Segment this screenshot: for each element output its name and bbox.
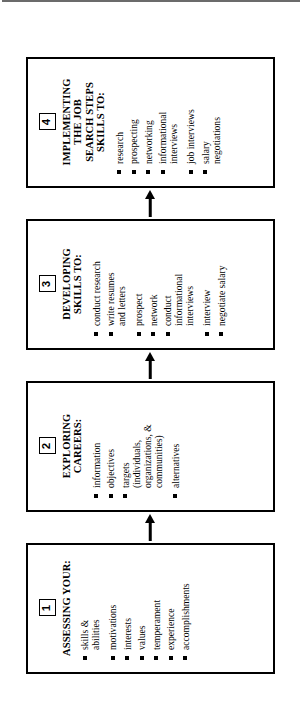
step-title-2: EXPLORING CAREERS: [61,391,84,501]
list-item: conduct research [91,229,102,336]
list-item: salary negotiations [200,67,222,174]
filled-square-bullet-icon [83,656,87,660]
flow-arrow-3-to-4 [144,188,156,219]
step-title-4: IMPLEMENTING THE JOB SEARCH STEPS SKILLS… [61,67,107,177]
filled-square-bullet-icon [189,170,193,174]
list-item-label: write resumes and letters [105,272,127,326]
filled-square-bullet-icon [140,656,144,660]
list-item: alternatives [170,391,181,498]
list-item-label: network [148,295,159,326]
list-item-label: interview [201,290,212,326]
list-item-label: skills & abilities [79,620,101,650]
filled-square-bullet-icon [109,494,113,498]
list-item-label: objectives [105,449,116,488]
filled-square-bullet-icon [161,170,165,174]
list-item-label: temperament [151,600,162,650]
list-item-label: conduct research [91,261,102,326]
list-item: informational interviews [157,67,179,174]
filled-square-bullet-icon [151,332,155,336]
list-item: motivations [107,553,118,660]
filled-square-bullet-icon [132,170,136,174]
filled-square-bullet-icon [94,494,98,498]
step-number-badge-4: 4 [39,114,56,131]
list-item-label: motivations [107,605,118,650]
list-item-label: targets (individuals, organizations, & c… [120,424,164,488]
list-item-label: information [91,443,102,488]
right-arrow-icon [145,352,155,361]
filled-square-bullet-icon [219,332,223,336]
list-item-label: negotiate salary [216,266,227,326]
list-item: information [91,391,102,498]
process-step-3: 3 DEVELOPING SKILLS TO: conduct research… [26,219,275,350]
process-flowchart: 1 ASSESSING YOUR: skills & abilities mot… [0,0,300,712]
process-step-1: 1 ASSESSING YOUR: skills & abilities mot… [26,543,275,674]
filled-square-bullet-icon [203,170,207,174]
step-number-badge-1: 1 [39,600,56,617]
step-title-1: ASSESSING YOUR: [61,553,73,663]
list-item: interview [201,229,212,336]
list-item: network [148,229,159,336]
list-item: networking [143,67,154,174]
list-item-label: networking [143,120,154,164]
right-arrow-icon [145,190,155,199]
list-item-label: accomplishments [180,583,191,650]
list-item-label: interests [122,618,133,650]
filled-square-bullet-icon [111,656,115,660]
filled-square-bullet-icon [123,494,127,498]
list-item-label: prospect [133,293,144,326]
list-item: temperament [151,553,162,660]
list-item: interests [122,553,133,660]
step-item-list-2: information objectives targets (individu… [91,391,185,501]
process-step-4: 4 IMPLEMENTING THE JOB SEARCH STEPS SKIL… [26,57,275,188]
list-item: job interviews [185,67,196,174]
list-item: values [136,553,147,660]
process-step-2: 2 EXPLORING CAREERS: information objecti… [26,381,275,512]
filled-square-bullet-icon [109,332,113,336]
filled-square-bullet-icon [173,494,177,498]
flow-arrow-2-to-3 [144,350,156,381]
step-number-badge-2: 2 [39,438,56,455]
list-item: accomplishments [180,553,191,660]
list-item-label: experience [165,608,176,650]
step-item-list-3: conduct research write resumes and lette… [91,229,231,339]
filled-square-bullet-icon [146,170,150,174]
list-item-label: salary negotiations [200,117,222,164]
list-item: negotiate salary [216,229,227,336]
list-item: skills & abilities [79,553,101,660]
filled-square-bullet-icon [166,332,170,336]
list-item-label: prospecting [128,119,139,164]
right-arrow-icon [145,514,155,523]
list-item: objectives [105,391,116,498]
list-item: experience [165,553,176,660]
flow-arrow-1-to-2 [144,512,156,543]
filled-square-bullet-icon [94,332,98,336]
filled-square-bullet-icon [125,656,129,660]
filled-square-bullet-icon [183,656,187,660]
list-item: prospect [133,229,144,336]
list-item: targets (individuals, organizations, & c… [120,391,164,498]
list-item: research [114,67,125,174]
list-item: write resumes and letters [105,229,127,336]
list-item-label: conduct informational interviews [162,274,195,326]
list-item-label: informational interviews [157,112,179,164]
filled-square-bullet-icon [205,332,209,336]
list-item-label: alternatives [170,444,181,488]
list-item: prospecting [128,67,139,174]
list-item: conduct informational interviews [162,229,195,336]
step-item-list-1: skills & abilities motivations interests… [79,553,194,663]
list-item-label: research [114,132,125,164]
filled-square-bullet-icon [169,656,173,660]
filled-square-bullet-icon [117,170,121,174]
step-title-3: DEVELOPING SKILLS TO: [61,229,84,339]
list-item-label: values [136,625,147,650]
filled-square-bullet-icon [154,656,158,660]
step-number-badge-3: 3 [39,276,56,293]
step-item-list-4: research prospecting networking informat… [114,67,226,177]
list-item-label: job interviews [185,109,196,164]
filled-square-bullet-icon [137,332,141,336]
